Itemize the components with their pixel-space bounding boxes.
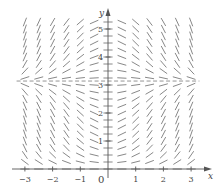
- x-tick-label: 1: [133, 175, 138, 184]
- slope-segment: [162, 123, 166, 131]
- slope-segment: [37, 123, 40, 131]
- slope-segment: [159, 77, 167, 79]
- slope-segment: [133, 33, 139, 39]
- slope-segment: [90, 147, 98, 150]
- slope-segment: [118, 63, 126, 65]
- slope-segment: [176, 116, 179, 124]
- slope-segment: [50, 137, 54, 144]
- slope-segment: [176, 123, 179, 131]
- slope-segment: [133, 138, 139, 143]
- slope-segment: [118, 147, 126, 150]
- slope-segment: [51, 123, 55, 131]
- slope-segment: [161, 96, 166, 102]
- slope-segment: [189, 53, 192, 61]
- slope-segment: [132, 62, 139, 66]
- slope-segment: [77, 146, 84, 151]
- slope-segment: [77, 47, 83, 53]
- slope-segment: [64, 145, 70, 151]
- slope-segment: [50, 145, 55, 152]
- slope-segment: [21, 83, 29, 86]
- slope-segment: [146, 61, 152, 67]
- slope-segment: [160, 160, 168, 164]
- slope-segment: [188, 68, 194, 74]
- slope-segment: [64, 19, 69, 26]
- slope-segment: [147, 32, 152, 39]
- slope-segment: [189, 95, 193, 102]
- slope-segment: [23, 152, 28, 159]
- x-tick-label: −2: [47, 175, 59, 184]
- slope-segment: [173, 77, 181, 79]
- slope-segment: [35, 160, 42, 164]
- slope-segment: [146, 96, 152, 102]
- slope-segment: [90, 48, 98, 51]
- slope-segment: [64, 40, 69, 47]
- slope-segment: [49, 69, 56, 74]
- slope-segment: [64, 131, 69, 138]
- slope-segment: [190, 123, 193, 131]
- slope-segment: [63, 90, 70, 94]
- slope-segment: [173, 84, 181, 87]
- slope-segment: [62, 77, 70, 78]
- slope-segment: [147, 26, 152, 33]
- slope-segment: [90, 34, 98, 38]
- slope-segment: [64, 117, 69, 124]
- slope-segment: [145, 84, 153, 86]
- slope-segment: [37, 46, 40, 54]
- slope-segment: [159, 84, 167, 86]
- y-tick-label: 2: [98, 109, 103, 118]
- slope-segment: [147, 145, 153, 151]
- slope-segment: [118, 27, 126, 31]
- slope-segment: [175, 61, 180, 68]
- slope-segment: [77, 40, 83, 46]
- slope-segment: [147, 19, 152, 26]
- slope-segment: [35, 84, 43, 87]
- slope-segment: [161, 102, 166, 109]
- slope-segment: [63, 61, 69, 67]
- slope-segment: [145, 77, 153, 78]
- slope-segment: [175, 18, 179, 26]
- slope-segment: [174, 160, 181, 164]
- slope-segment: [176, 25, 179, 33]
- slope-segment: [175, 152, 180, 158]
- slope-segment: [189, 152, 194, 159]
- slope-segment: [76, 84, 84, 85]
- slope-segment: [77, 138, 83, 143]
- slope-segment: [161, 46, 165, 53]
- slope-segment: [90, 63, 98, 65]
- slope-segment: [64, 47, 69, 54]
- slope-segment: [90, 56, 98, 59]
- slope-segment: [90, 154, 98, 156]
- slope-segment: [64, 103, 69, 109]
- y-tick-label: 5: [98, 25, 103, 34]
- slope-segment: [161, 137, 165, 144]
- slope-segment: [118, 125, 126, 129]
- slope-segment: [51, 130, 55, 137]
- slope-segment: [37, 130, 40, 138]
- slope-segment: [175, 137, 179, 145]
- slope-segment: [63, 69, 70, 73]
- slope-segment: [23, 60, 27, 67]
- slope-segment: [147, 40, 152, 47]
- slope-segment: [133, 117, 139, 123]
- slope-segment: [77, 26, 83, 32]
- slope-segment: [36, 89, 42, 95]
- slope-segment: [23, 144, 27, 152]
- slope-segment: [51, 25, 55, 32]
- slope-segment: [187, 83, 195, 86]
- slope-segment: [51, 32, 55, 40]
- slope-segment: [64, 54, 70, 60]
- slope-segment: [174, 89, 180, 95]
- slope-segment: [176, 32, 179, 40]
- slope-segment: [133, 26, 139, 32]
- slope-segment: [50, 102, 55, 109]
- slope-segment: [77, 117, 83, 123]
- y-tick-label: 4: [98, 53, 103, 62]
- slope-segment: [24, 32, 27, 40]
- slope-segment: [160, 152, 166, 158]
- slope-segment: [118, 104, 126, 107]
- slope-field-diagram: x y 0 −3−2−1123 12345: [0, 0, 221, 192]
- slope-segment: [147, 47, 152, 54]
- slope-segment: [37, 18, 41, 26]
- slope-segment: [77, 97, 84, 101]
- slope-segment: [175, 96, 180, 103]
